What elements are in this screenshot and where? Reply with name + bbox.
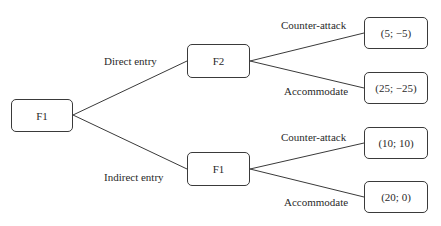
lower-node-label: F1 [213, 163, 225, 175]
edge-label-lower-counter-attack: Counter-attack [281, 131, 346, 143]
payoff-node-2: (25; −25) [364, 72, 428, 104]
edge-direct-entry [73, 61, 187, 115]
edge-indirect-entry [73, 115, 187, 169]
payoff-node-1: (5; −5) [364, 17, 428, 49]
edge-label-lower-accommodate: Accommodate [284, 196, 348, 208]
edge-label-direct-entry: Direct entry [104, 55, 157, 67]
payoff-node-4: (20; 0) [364, 181, 428, 213]
edge-label-indirect-entry: Indirect entry [104, 171, 164, 183]
edge-lower-accommodate [250, 169, 364, 197]
edge-label-upper-counter-attack: Counter-attack [281, 19, 346, 31]
upper-node-label: F2 [213, 55, 225, 67]
edge-lower-counter-attack [250, 143, 364, 169]
payoff-4-label: (20; 0) [381, 191, 411, 203]
root-node-label: F1 [36, 110, 48, 122]
payoff-2-label: (25; −25) [375, 82, 416, 94]
payoff-1-label: (5; −5) [381, 27, 411, 39]
edge-upper-accommodate [250, 61, 364, 88]
upper-decision-node: F2 [187, 44, 250, 78]
payoff-node-3: (10; 10) [364, 127, 428, 159]
payoff-3-label: (10; 10) [378, 137, 413, 149]
edge-label-upper-accommodate: Accommodate [284, 85, 348, 97]
edge-upper-counter-attack [250, 33, 364, 61]
lower-decision-node: F1 [187, 152, 250, 186]
root-node: F1 [11, 99, 73, 132]
